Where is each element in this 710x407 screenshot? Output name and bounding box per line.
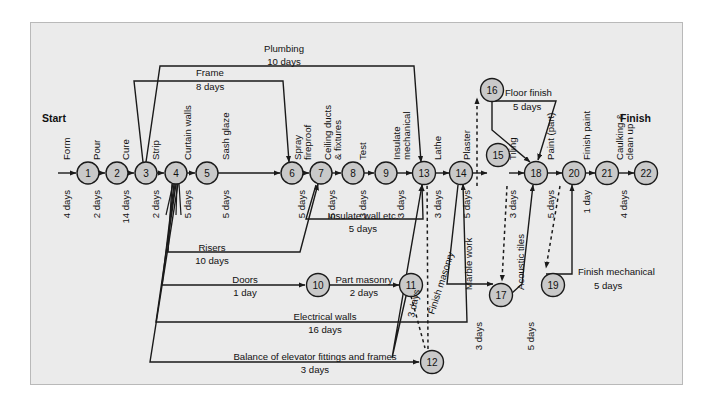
activity-acoustic-tiles-name: Acoustic tiles [515,234,526,290]
activity-spray-duration: 5 days [296,190,307,218]
activity-part-masonry-duration: 2 days [350,287,378,298]
activity-lathe-name: Lathe [432,136,443,160]
activity-pour-name: Pour [91,139,102,160]
activity-strip-name: Strip [150,140,161,160]
activity-finish-paint-duration: 1 day [581,190,592,214]
activity-strip-duration: 2 days [150,190,161,218]
activity-plumbing-duration: 10 days [267,56,301,67]
node-12-label: 12 [426,357,438,368]
activity-electrical-walls-name: Electrical walls [294,311,357,322]
node-4-label: 4 [173,168,179,179]
node-22-label: 22 [640,168,652,179]
node-21-label: 21 [601,168,613,179]
diagram-canvas: 1 2 3 4 5 6 7 8 [0,0,710,407]
activity-acoustic-tiles-duration: 5 days [525,322,536,350]
activity-doors-name: Doors [232,274,258,285]
activity-floor-finish-duration: 5 days [513,101,541,112]
activity-curtain-walls-name: Curtain walls [182,105,193,160]
activity-tiling-duration: 3 days [507,190,518,218]
activity-caulking-duration: 4 days [618,190,629,218]
activity-marble-work-duration: 3 days [473,322,484,350]
activity-part-masonry-name: Part masonry [335,274,392,285]
node-1[interactable]: 1 [77,162,99,184]
activity-insulate-wall-duration: 5 days [349,223,377,234]
activity-form-name: Form [61,138,72,160]
activity-paint-part-name: Paint (part) [545,113,556,160]
activity-fireproof-name: fireproof [302,124,313,160]
activity-sash-glaze-name: Sash glaze [220,113,231,160]
activity-floor-finish-name: Floor finish [505,87,552,98]
activity-lathe-duration: 3 days [432,190,443,218]
network-diagram-svg: 1 2 3 4 5 6 7 8 [0,0,710,407]
activity-tiling-name: Tiling [507,137,518,160]
node-8-label: 8 [350,168,356,179]
activity-test-name: Test [357,142,368,160]
node-14-label: 14 [455,168,467,179]
node-14[interactable]: 14 [450,162,473,185]
node-13[interactable]: 13 [413,162,436,185]
node-9-label: 9 [383,168,389,179]
activity-fixtures-name: & fixtures [332,120,343,160]
activity-pour-duration: 2 days [91,190,102,218]
node-21[interactable]: 21 [596,162,619,185]
activity-finish-mechanical-duration: 5 days [594,280,622,291]
node-10[interactable]: 10 [307,274,330,297]
node-22[interactable]: 22 [635,162,658,185]
node-1-label: 1 [85,168,91,179]
activity-finish-paint-name: Finish paint [581,111,592,160]
activity-mechanical-name: mechanical [401,111,412,160]
activity-frame-duration: 8 days [196,81,224,92]
activity-cleanup-name: clean up [624,124,635,160]
activity-curtain-walls-duration: 5 days [182,190,193,218]
node-5[interactable]: 5 [196,162,218,184]
node-6-label: 6 [289,168,295,179]
node-12[interactable]: 12 [421,351,444,374]
activity-form-duration: 4 days [61,190,72,218]
node-16-label: 16 [486,85,498,96]
node-5-label: 5 [204,168,210,179]
activity-risers-name: Risers [198,242,225,253]
node-10-label: 10 [312,280,324,291]
activity-insulate-wall-name: Insulate wall etc. [328,210,399,221]
activity-finish-mechanical-name: Finish mechanical [578,266,655,277]
node-19[interactable]: 19 [542,274,565,297]
node-7-label: 7 [318,168,324,179]
activity-plaster-duration: 5 days [461,190,472,218]
node-8[interactable]: 8 [342,162,364,184]
node-3-label: 3 [143,168,149,179]
activity-electrical-walls-duration: 16 days [308,324,342,335]
activity-paint-part-duration: 5 days [545,190,556,218]
node-19-label: 19 [547,280,559,291]
activity-risers-duration: 10 days [195,255,229,266]
activity-finish-masonry-name: Finish masonry [425,250,456,315]
node-4[interactable]: 4 [165,162,187,184]
node-16[interactable]: 16 [481,79,504,102]
node-2[interactable]: 2 [106,162,128,184]
node-18-label: 18 [530,168,542,179]
node-20-label: 20 [568,168,580,179]
activity-balance-elevator-name: Balance of elevator fittings and frames [233,351,396,362]
node-20[interactable]: 20 [563,162,586,185]
start-label: Start [42,112,66,124]
activity-plumbing-name: Plumbing [264,43,304,54]
node-2-label: 2 [114,168,120,179]
activity-doors-duration: 1 day [233,287,257,298]
node-17-label: 17 [495,290,507,301]
node-6[interactable]: 6 [281,162,303,184]
activity-marble-work-name: Marble work [463,238,474,290]
node-18[interactable]: 18 [525,162,548,185]
edge-electrical-walls [156,184,467,322]
activity-balance-elevator-duration: 3 days [301,364,329,375]
node-13-label: 13 [418,168,430,179]
activity-cure-duration: 14 days [120,190,131,224]
node-7[interactable]: 7 [310,162,332,184]
node-15-label: 15 [492,150,504,161]
activity-frame-name: Frame [196,67,224,78]
node-3[interactable]: 3 [135,162,157,184]
activity-plaster-name: Plaster [461,129,472,160]
activity-sash-glaze-duration: 5 days [220,190,231,218]
node-9[interactable]: 9 [375,162,397,184]
node-17[interactable]: 17 [490,284,513,307]
activity-cure-name: Cure [120,139,131,160]
